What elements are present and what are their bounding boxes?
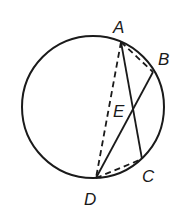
label-d: D [84, 190, 96, 209]
chord-bd [96, 72, 153, 178]
label-a: A [112, 18, 124, 37]
chord-dc-dashed [96, 159, 142, 178]
circle [22, 36, 164, 178]
label-c: C [142, 167, 155, 186]
label-e: E [113, 102, 125, 121]
label-b: B [158, 50, 169, 69]
circle-diagram: A B E C D [0, 0, 179, 210]
